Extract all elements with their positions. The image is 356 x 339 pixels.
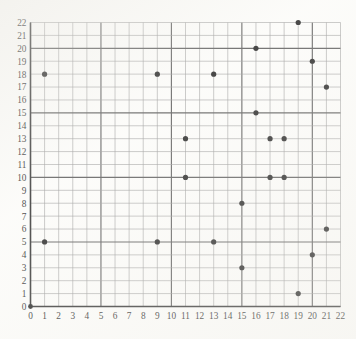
x-tick-label: 16 — [251, 311, 261, 321]
y-tick-label: 18 — [17, 70, 27, 80]
data-point — [42, 239, 47, 244]
x-tick-label: 11 — [181, 311, 190, 321]
data-point — [324, 84, 329, 89]
x-tick-label: 21 — [322, 311, 332, 321]
y-tick-label: 17 — [17, 82, 27, 92]
y-tick-label: 8 — [22, 199, 27, 209]
y-tick-label: 13 — [17, 134, 27, 144]
data-point — [211, 239, 216, 244]
y-tick-label: 1 — [22, 289, 27, 299]
data-point — [239, 265, 244, 270]
x-tick-label: 22 — [336, 311, 346, 321]
y-tick-label: 7 — [22, 212, 27, 222]
data-point — [310, 59, 315, 64]
y-tick-label: 15 — [17, 108, 27, 118]
y-tick-label: 22 — [17, 18, 27, 28]
x-axis-tick-labels: 012345678910111213141516171819202122 — [28, 311, 345, 321]
y-tick-label: 20 — [17, 44, 27, 54]
data-point — [253, 46, 258, 51]
data-point — [282, 136, 287, 141]
x-tick-label: 18 — [279, 311, 289, 321]
y-axis-tick-labels: 012345678910111213141516171819202122 — [17, 18, 27, 312]
x-tick-label: 0 — [28, 311, 33, 321]
x-tick-label: 9 — [155, 311, 160, 321]
data-point — [155, 239, 160, 244]
data-point — [253, 110, 258, 115]
y-tick-label: 9 — [22, 186, 27, 196]
x-tick-label: 4 — [85, 311, 90, 321]
x-tick-label: 13 — [209, 311, 219, 321]
y-tick-label: 19 — [17, 57, 27, 67]
origin-marker — [28, 304, 33, 309]
y-tick-label: 6 — [22, 224, 27, 234]
data-point — [183, 175, 188, 180]
x-tick-label: 3 — [70, 311, 75, 321]
y-tick-label: 0 — [22, 302, 27, 312]
data-point — [155, 72, 160, 77]
x-tick-label: 5 — [99, 311, 104, 321]
y-tick-label: 12 — [17, 147, 27, 157]
x-tick-label: 14 — [223, 311, 233, 321]
y-tick-label: 2 — [22, 276, 27, 286]
x-tick-label: 20 — [308, 311, 318, 321]
data-point — [282, 175, 287, 180]
y-tick-label: 14 — [17, 121, 27, 131]
data-point — [296, 291, 301, 296]
scatter-plot-chart: 012345678910111213141516171819202122 012… — [0, 0, 356, 339]
x-tick-label: 12 — [195, 311, 205, 321]
x-tick-label: 17 — [265, 311, 275, 321]
data-point — [267, 136, 272, 141]
y-tick-label: 16 — [17, 95, 27, 105]
x-tick-label: 2 — [56, 311, 61, 321]
data-point — [296, 20, 301, 25]
data-point — [183, 136, 188, 141]
x-tick-label: 6 — [113, 311, 118, 321]
data-point — [42, 72, 47, 77]
data-point — [267, 175, 272, 180]
x-tick-label: 15 — [237, 311, 247, 321]
y-tick-label: 5 — [22, 237, 27, 247]
x-tick-label: 7 — [127, 311, 132, 321]
x-tick-label: 1 — [42, 311, 47, 321]
data-point — [324, 226, 329, 231]
y-tick-label: 11 — [18, 160, 27, 170]
data-point — [211, 72, 216, 77]
y-tick-label: 21 — [17, 31, 27, 41]
y-tick-label: 4 — [22, 250, 27, 260]
x-tick-label: 19 — [294, 311, 304, 321]
data-point — [310, 252, 315, 257]
grid-layer — [31, 23, 341, 307]
y-tick-label: 3 — [22, 263, 27, 273]
x-tick-label: 8 — [141, 311, 146, 321]
plot-canvas: 012345678910111213141516171819202122 012… — [0, 0, 356, 339]
x-tick-label: 10 — [167, 311, 177, 321]
y-tick-label: 10 — [17, 173, 27, 183]
data-point — [239, 201, 244, 206]
